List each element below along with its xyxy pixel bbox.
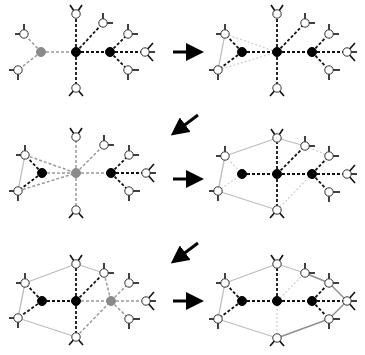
- black-node: [38, 169, 47, 178]
- white-node: [273, 10, 281, 18]
- white-node: [100, 269, 108, 277]
- white-node: [301, 142, 309, 150]
- panel-3: [9, 128, 156, 218]
- white-node: [301, 19, 309, 27]
- edge-solid-gray: [218, 319, 277, 338]
- white-node: [325, 279, 333, 287]
- edge-solid-gray: [218, 191, 277, 210]
- black-node: [238, 297, 247, 306]
- edge-dotted-light: [277, 273, 305, 301]
- white-node: [100, 141, 108, 149]
- white-node: [273, 206, 281, 214]
- white-node: [125, 187, 133, 195]
- edge-dashed-dark: [277, 23, 305, 52]
- black-node: [106, 48, 115, 57]
- white-node: [14, 314, 22, 322]
- black-node: [238, 170, 247, 179]
- black-node: [72, 48, 81, 57]
- white-node: [20, 30, 28, 38]
- gray-node: [72, 169, 81, 178]
- black-node: [273, 170, 282, 179]
- white-node: [14, 66, 22, 74]
- white-node: [325, 30, 333, 38]
- white-node: [21, 151, 29, 159]
- edge-solid-gray: [218, 156, 225, 191]
- edge-dashed-dark: [76, 273, 104, 301]
- edge-dashed-dark: [277, 146, 305, 174]
- stubs: [9, 5, 155, 96]
- white-node: [124, 30, 132, 38]
- white-node: [273, 134, 281, 142]
- edge-dashed-gray: [18, 173, 76, 191]
- white-node: [273, 84, 281, 92]
- white-node: [124, 66, 132, 74]
- edge-dotted-light: [277, 174, 312, 210]
- white-node: [273, 334, 281, 342]
- white-node: [142, 297, 150, 305]
- white-node: [214, 187, 222, 195]
- white-node: [325, 152, 333, 160]
- arrows-layer: [173, 52, 198, 301]
- white-node: [72, 10, 80, 18]
- white-node: [343, 48, 351, 56]
- black-node: [308, 170, 317, 179]
- edge-solid-dark-gray: [277, 319, 329, 338]
- black-node: [273, 297, 282, 306]
- panel-1: [9, 5, 155, 96]
- white-node: [325, 188, 333, 196]
- nodes: [214, 10, 351, 92]
- gray-node: [107, 297, 116, 306]
- white-node: [301, 269, 309, 277]
- white-node: [141, 48, 149, 56]
- arrow-step-2-to-3-icon: [178, 115, 198, 130]
- black-node: [308, 48, 317, 57]
- white-node: [343, 297, 351, 305]
- white-node: [325, 315, 333, 323]
- edge-dashed-gray: [76, 145, 104, 173]
- white-node: [125, 279, 133, 287]
- black-node: [308, 297, 317, 306]
- black-node: [72, 297, 81, 306]
- white-node: [142, 169, 150, 177]
- black-node: [273, 48, 282, 57]
- panel-5: [9, 255, 156, 345]
- white-node: [72, 260, 80, 268]
- panels-layer: [9, 5, 357, 346]
- black-node: [38, 297, 47, 306]
- white-node: [343, 170, 351, 178]
- black-node: [107, 169, 116, 178]
- edge-solid-gray: [225, 138, 277, 156]
- white-node: [214, 66, 222, 74]
- edge-dashed-gray: [76, 301, 111, 337]
- white-node: [125, 315, 133, 323]
- edge-solid-gray: [25, 264, 76, 283]
- arrow-step-4-to-5-icon: [178, 243, 198, 258]
- white-node: [72, 133, 80, 141]
- nodes: [14, 10, 149, 92]
- white-node: [221, 152, 229, 160]
- black-node: [238, 48, 247, 57]
- white-node: [72, 84, 80, 92]
- graph-transformation-diagram: [0, 0, 365, 355]
- gray-node: [37, 48, 46, 57]
- white-node: [273, 260, 281, 268]
- white-node: [221, 30, 229, 38]
- white-node: [21, 279, 29, 287]
- white-node: [72, 206, 80, 214]
- stubs: [9, 255, 156, 345]
- white-node: [125, 151, 133, 159]
- panel-6: [209, 255, 357, 346]
- stubs: [209, 5, 357, 96]
- white-node: [99, 19, 107, 27]
- edge-dotted-light: [218, 52, 277, 70]
- white-node: [214, 315, 222, 323]
- edge-solid-gray: [225, 264, 277, 283]
- edge-solid-gray: [18, 318, 76, 337]
- white-node: [325, 66, 333, 74]
- panel-4: [209, 129, 357, 218]
- panel-2: [209, 5, 357, 96]
- white-node: [14, 187, 22, 195]
- white-node: [72, 333, 80, 341]
- edge-dashed-dark: [76, 23, 103, 52]
- diagram-canvas: [0, 0, 365, 355]
